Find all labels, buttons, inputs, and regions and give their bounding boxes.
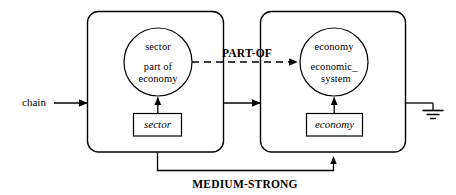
right-instance-label: economy: [315, 119, 354, 131]
chain-input-label: chain: [22, 97, 46, 109]
left-concept-line-1: sector: [145, 41, 171, 52]
part-of-relation-label: PART-OF: [222, 47, 272, 59]
left-concept-line-3: economy: [138, 73, 177, 84]
right-concept-line-3: system: [321, 73, 351, 84]
medium-strong-connector: [158, 153, 334, 171]
left-concept-line-2: part of: [144, 61, 172, 72]
left-instance-label: sector: [144, 119, 171, 131]
right-concept-line-1: economy: [314, 41, 353, 52]
diagram-vector-layer: [0, 0, 456, 195]
right-concept-line-2: economic_: [311, 61, 358, 72]
medium-strong-relation-label: MEDIUM-STRONG: [192, 178, 297, 190]
diagram-canvas: sector part of economy economy economic_…: [0, 0, 456, 195]
